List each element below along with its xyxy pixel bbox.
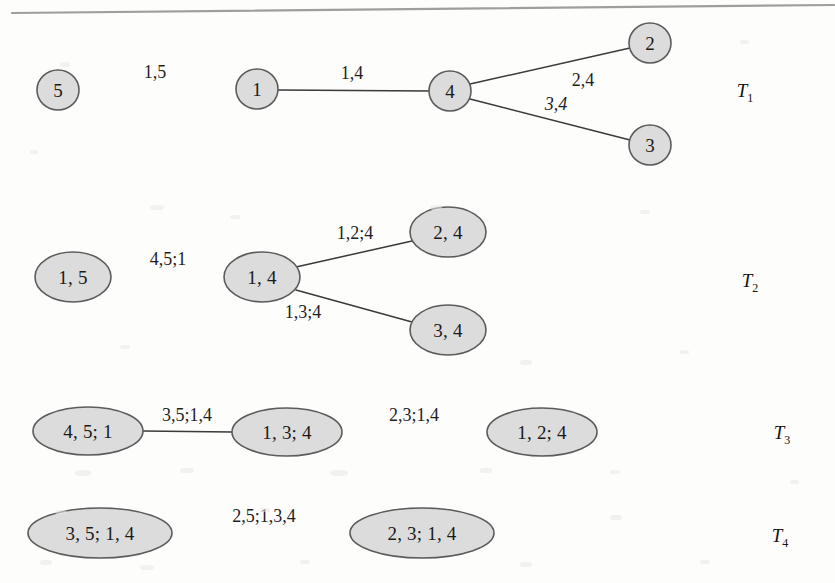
tree-node-ellipse: [410, 305, 486, 355]
tree-node-ellipse: [224, 252, 300, 302]
tree-name-subscript: 1: [747, 91, 753, 105]
tree-node-ellipse: [37, 70, 79, 110]
figure-canvas: 1,51,42,43,451423T14,5;11,2;41,3;41, 51,…: [0, 0, 835, 583]
tree-nodes-group: [28, 23, 671, 558]
edge-label: 1,3;4: [285, 302, 322, 323]
tree-name-subscript: 4: [782, 536, 788, 550]
tree-name-base: T: [772, 525, 783, 546]
tree-node-ellipse: [232, 408, 342, 456]
tree-name-label: T3: [774, 422, 791, 448]
scan-edge-line: [12, 5, 834, 13]
tree-name-base: T: [737, 80, 748, 101]
tree-name-label: T2: [742, 270, 759, 296]
tree-edges-group: [79, 48, 630, 533]
tree-node-ellipse: [35, 252, 111, 302]
tree-node-ellipse: [350, 508, 494, 558]
tree-diagram-svg: [0, 0, 835, 583]
tree-edge: [296, 241, 412, 267]
tree-node-ellipse: [236, 69, 278, 109]
tree-edge: [278, 90, 429, 91]
tree-edge: [470, 48, 630, 84]
tree-name-base: T: [742, 270, 753, 291]
edge-label: 2,4: [572, 70, 595, 91]
edge-label: 1,5: [144, 62, 167, 83]
tree-name-label: T4: [772, 525, 789, 551]
edge-label: 2,3;1,4: [389, 405, 439, 426]
tree-node-ellipse: [487, 408, 597, 456]
tree-node-ellipse: [28, 508, 172, 558]
edge-label: 2,5;1,3,4: [232, 506, 296, 527]
tree-edge: [143, 431, 232, 432]
tree-name-subscript: 2: [752, 281, 758, 295]
tree-name-base: T: [774, 422, 785, 443]
edge-label: 1,4: [341, 63, 364, 84]
tree-node-ellipse: [33, 407, 143, 455]
edge-label: 3,5;1,4: [162, 405, 212, 426]
edge-label: 1,2;4: [337, 223, 374, 244]
tree-node-ellipse: [410, 207, 486, 257]
tree-node-ellipse: [629, 125, 671, 165]
scan-page-edge-line: [12, 5, 834, 13]
tree-name-label: T1: [737, 80, 754, 106]
tree-name-subscript: 3: [784, 433, 790, 447]
edge-label: 4,5;1: [150, 249, 187, 270]
tree-node-ellipse: [429, 71, 471, 111]
tree-node-ellipse: [629, 23, 671, 63]
edge-label: 3,4: [545, 94, 568, 115]
